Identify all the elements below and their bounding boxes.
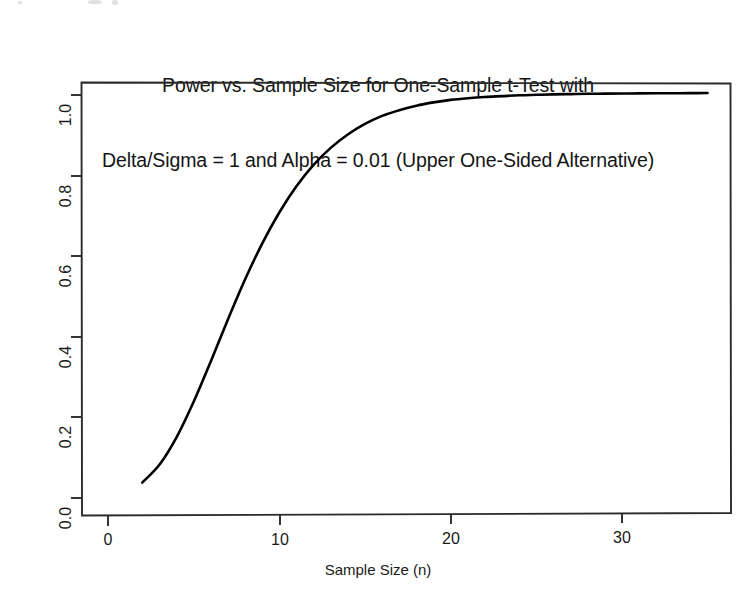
plot-frame [82,83,732,516]
y-tick-label-0.4: 0.4 [57,337,75,377]
power-curve-line [142,93,707,483]
x-tick-label-0: 0 [88,531,128,549]
x-tick-label-20: 20 [431,530,471,548]
x-axis-title: Sample Size (n) [0,561,756,578]
x-tick-label-30: 30 [602,529,642,547]
y-tick-label-0.6: 0.6 [57,256,75,296]
y-tick-label-0.2: 0.2 [57,417,75,457]
power-curve-figure: Power vs. Sample Size for One-Sample t-T… [0,0,756,599]
x-tick-label-10: 10 [260,531,300,549]
y-tick-label-0.8: 0.8 [57,176,75,216]
y-tick-label-0.0: 0.0 [57,498,75,538]
plot-canvas [0,0,756,599]
y-axis-title: Power [0,295,67,315]
y-tick-label-1.0: 1.0 [57,95,75,135]
